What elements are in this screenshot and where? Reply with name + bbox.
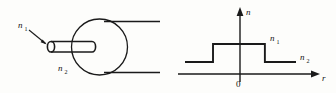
cladding-index-label-subscript: 2 [65, 69, 68, 75]
cladding-index-label: n [58, 63, 63, 73]
core-level-label-subscript: 1 [277, 39, 280, 45]
vertical-axis-label: n [246, 7, 251, 17]
fiber-diagram-group: n 1 n 2 [18, 19, 160, 75]
core-index-label: n [18, 20, 23, 30]
index-profile-group: n r 0 n 1 n 2 [178, 7, 326, 89]
vertical-axis-arrowhead-icon [237, 7, 244, 16]
horizontal-axis-arrowhead-icon [311, 71, 320, 78]
horizontal-axis-label: r [322, 73, 326, 83]
figure-canvas: n 1 n 2 n r 0 n 1 n [0, 0, 336, 93]
cladding-level-label: n [300, 52, 305, 62]
core-rod-right-cap [92, 42, 96, 53]
core-level-label: n [270, 33, 275, 43]
cladding-circle [72, 19, 128, 75]
core-rod-left-face-ellipse [47, 42, 54, 53]
core-index-label-subscript: 1 [25, 26, 28, 32]
origin-label: 0 [236, 79, 241, 89]
figure-root: n 1 n 2 n r 0 n 1 n [0, 0, 336, 93]
cladding-level-label-subscript: 2 [307, 58, 310, 64]
